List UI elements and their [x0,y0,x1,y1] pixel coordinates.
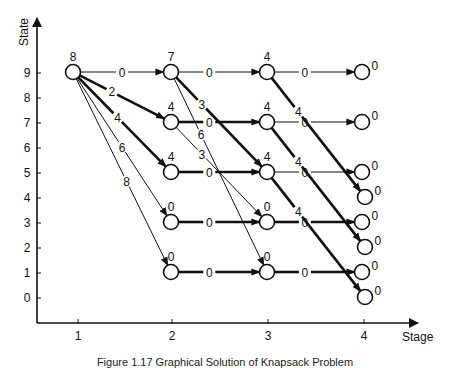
edge: 0 [179,216,260,230]
node: 4 [164,150,179,180]
node-circle [66,65,81,80]
edge-label: 2 [108,85,115,99]
y-tick-label: 1 [24,266,31,280]
edge-label: 0 [206,66,213,80]
edge-label: 4 [114,111,121,125]
y-tick-label: 9 [24,66,31,80]
edge-label: 6 [119,141,126,155]
edge: 4 [272,78,361,191]
edge-label: 0 [302,116,309,130]
node-circle [164,265,179,280]
y-tick-label: 6 [24,141,31,155]
node-value: 4 [264,50,271,64]
edge-label: 0 [302,166,309,180]
node: 4 [164,100,179,130]
edge-label: 0 [206,266,213,280]
y-tick-label: 7 [24,116,31,130]
node: 0 [164,250,179,280]
node: 0 [260,200,275,230]
node-value: 0 [372,159,379,173]
y-ticks: 0123456789 [24,66,41,305]
y-tick-label: 0 [24,291,31,305]
node-value: 4 [264,150,271,164]
node-circle [164,115,179,130]
edge: 0 [81,66,164,80]
edge-label: 0 [206,166,213,180]
node: 0 [358,284,382,305]
y-tick-label: 2 [24,241,31,255]
y-tick-label: 3 [24,216,31,230]
edge: 4 [272,178,361,291]
node: 4 [260,150,275,180]
node-value: 0 [375,184,382,198]
node-value: 0 [168,200,175,214]
node-value: 0 [372,259,379,273]
node-value: 0 [375,284,382,298]
edge: 8 [76,79,167,266]
node: 0 [355,59,379,80]
edge-label: 3 [199,98,206,112]
node-circle [358,190,373,205]
node-circle [260,215,275,230]
edge: 0 [179,66,260,80]
y-axis-label: State [17,18,31,46]
y-tick-label: 4 [24,191,31,205]
node: 8 [66,50,81,80]
x-axis-label: Stage [402,330,434,344]
node: 4 [260,50,275,80]
node: 0 [358,234,382,255]
edge-label: 8 [123,175,130,189]
edge-label: 0 [302,216,309,230]
y-tick-label: 8 [24,91,31,105]
edge: 4 [272,128,361,241]
edge: 0 [275,66,355,80]
edge-label: 0 [302,266,309,280]
node-circle [355,165,370,180]
node-circle [358,290,373,305]
node-value: 4 [168,100,175,114]
edge-label: 0 [302,66,309,80]
node: 0 [355,209,379,230]
node-value: 0 [264,200,271,214]
node-circle [355,265,370,280]
node: 7 [164,50,179,80]
node-circle [355,65,370,80]
node-circle [260,265,275,280]
node-value: 0 [372,109,379,123]
node-value: 0 [168,250,175,264]
node: 0 [355,109,379,130]
edge-label: 0 [206,116,213,130]
edge-label: 3 [199,148,206,162]
node: 0 [358,184,382,205]
node-circle [260,165,275,180]
x-tick-label: 2 [169,329,176,343]
node: 0 [355,159,379,180]
x-tick-label: 4 [361,329,368,343]
x-tick-label: 1 [75,329,82,343]
node-value: 7 [168,50,175,64]
figure-caption: Figure 1.17 Graphical Solution of Knapsa… [0,356,450,368]
x-tick-label: 3 [265,329,272,343]
node-circle [260,65,275,80]
edge: 0 [179,116,260,130]
node-circle [355,115,370,130]
node-value: 0 [264,250,271,264]
edge-label: 6 [198,128,205,142]
node-value: 4 [168,150,175,164]
node: 0 [260,250,275,280]
node-value: 0 [375,234,382,248]
edge-label: 0 [119,66,126,80]
edge: 6 [77,78,167,215]
node-value: 4 [264,100,271,114]
edge: 0 [179,266,260,280]
edge: 0 [179,166,260,180]
node-circle [355,215,370,230]
node-value: 8 [70,50,77,64]
node: 0 [355,259,379,280]
node-circle [260,115,275,130]
node-value: 0 [372,59,379,73]
node-circle [358,240,373,255]
node-circle [164,65,179,80]
edges: 024680360300004040400 [76,66,360,292]
